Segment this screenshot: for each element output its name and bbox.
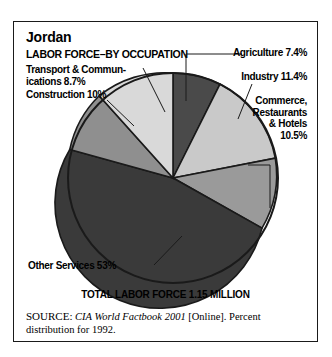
label-other-services: Other Services 53% <box>28 260 116 272</box>
total-labor-force-caption: TOTAL LABOR FORCE 1.15 MILLION <box>14 289 317 300</box>
label-agriculture: Agriculture 7.4% <box>233 47 307 59</box>
label-transport: Transport & Commun- ications 8.7% <box>26 64 146 87</box>
label-commerce: Commerce, Restaurants & Hotels 10.5% <box>187 95 307 141</box>
label-industry: Industry 11.4% <box>241 71 307 83</box>
label-construction: Construction 10% <box>26 89 106 101</box>
source-note: SOURCE: CIA World Factbook 2001 [Online]… <box>26 310 305 336</box>
source-prefix: SOURCE: <box>26 310 72 322</box>
figure-frame: Jordan LABOR FORCE–BY OCCUPATION <box>13 21 318 342</box>
source-title: CIA World Factbook 2001 <box>75 311 186 322</box>
